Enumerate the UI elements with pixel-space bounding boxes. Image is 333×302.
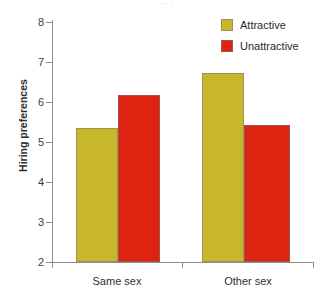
y-axis-tick-label-6: 6 xyxy=(14,97,44,108)
bar-same-sex-attractive[interactable] xyxy=(76,128,118,262)
y-axis-tick-label-8: 8 xyxy=(14,17,44,28)
legend-label-attractive: Attractive xyxy=(240,19,286,31)
chart-figure: ·· · Hiring preferences 8765432 Same sex… xyxy=(0,0,333,302)
x-axis-label-same-sex: Same sex xyxy=(52,275,182,287)
plot-area xyxy=(52,22,313,262)
y-axis-tick-label-3: 3 xyxy=(14,217,44,228)
legend-item-attractive[interactable]: Attractive xyxy=(221,16,299,34)
y-axis-tick-label-4: 4 xyxy=(14,177,44,188)
legend-swatch-attractive-icon xyxy=(221,19,233,31)
legend-item-unattractive[interactable]: Unattractive xyxy=(221,37,299,55)
cropped-title-remnant: ·· · xyxy=(0,0,333,6)
bar-same-sex-unattractive[interactable] xyxy=(118,95,160,262)
legend-swatch-unattractive-icon xyxy=(221,40,233,52)
x-axis-label-other-sex: Other sex xyxy=(183,275,313,287)
y-axis-title: Hiring preferences xyxy=(18,56,29,196)
x-axis-tick-end xyxy=(313,262,314,268)
y-axis-tick-label-2: 2 xyxy=(14,257,44,268)
bar-other-sex-attractive[interactable] xyxy=(202,73,244,262)
bar-other-sex-unattractive[interactable] xyxy=(244,125,290,262)
y-axis-tick-label-7: 7 xyxy=(14,57,44,68)
legend-label-unattractive: Unattractive xyxy=(240,40,299,52)
y-axis-tick-label-5: 5 xyxy=(14,137,44,148)
legend: Attractive Unattractive xyxy=(221,16,299,58)
x-axis-tick-middle xyxy=(182,262,183,268)
x-axis-tick-start xyxy=(52,262,53,268)
